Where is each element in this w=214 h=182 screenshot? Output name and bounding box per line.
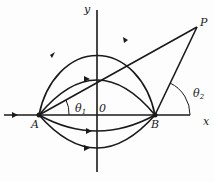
line-b-to-p (155, 27, 197, 115)
x-axis-label: x (203, 115, 210, 128)
point-p-label: P (199, 16, 208, 29)
origin-label: 0 (99, 102, 106, 115)
arrow-icon (12, 112, 18, 118)
theta2-label: θ2 (193, 87, 205, 101)
theta1-label: θ1 (75, 102, 86, 116)
arrow-icon (50, 52, 55, 58)
arrow-icon (123, 37, 128, 43)
point-b-label: B (150, 118, 159, 131)
point-a-dot (37, 113, 42, 118)
y-axis-label: y (83, 3, 91, 16)
theta2-arc (170, 83, 190, 115)
point-a-label: A (30, 118, 39, 131)
line-a-to-p (39, 27, 197, 115)
arrow-icon (86, 128, 92, 134)
theta1-arc (66, 100, 69, 115)
diagram-svg: y x A B P 0 θ1 θ2 (0, 0, 214, 182)
point-b-dot (153, 113, 158, 118)
field-lines-diagram: y x A B P 0 θ1 θ2 (0, 0, 214, 182)
arrow-icon (84, 145, 90, 151)
